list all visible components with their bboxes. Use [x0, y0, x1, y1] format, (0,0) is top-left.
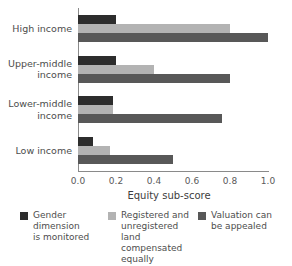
legend-swatch-icon — [198, 212, 206, 220]
legend-label: Registered and unregistered land compens… — [121, 210, 196, 265]
plot-area — [78, 8, 268, 171]
legend-entry[interactable]: Registered and unregistered land compens… — [108, 210, 196, 265]
legend-entry[interactable]: Valuation can be appealed — [198, 210, 290, 232]
bar-group — [78, 137, 268, 164]
x-axis-tick-label: 0.2 — [96, 176, 136, 186]
legend-swatch-icon — [20, 212, 28, 220]
bar — [78, 74, 230, 83]
bar-group — [78, 56, 268, 83]
bar-group — [78, 96, 268, 123]
bar — [78, 146, 110, 155]
bar — [78, 114, 222, 123]
bar-chart-figure: High incomeUpper-middle incomeLower-midd… — [0, 0, 292, 266]
bar — [78, 33, 268, 42]
bar — [78, 15, 116, 24]
y-axis-tick-label: Upper-middle income — [0, 58, 72, 81]
bar — [78, 24, 230, 33]
legend-label: Valuation can be appealed — [211, 210, 272, 232]
y-axis-tick-label: Lower-middle income — [0, 98, 72, 121]
legend-entry[interactable]: Gender dimension is monitored — [20, 210, 108, 243]
x-axis-spine — [78, 171, 269, 172]
x-axis-tick-label: 0.0 — [58, 176, 98, 186]
bar — [78, 105, 113, 114]
legend-swatch-icon — [108, 212, 116, 220]
y-axis-tick-label: Low income — [0, 145, 72, 157]
x-axis-tick-label: 1.0 — [248, 176, 288, 186]
x-axis-tick-label: 0.4 — [134, 176, 174, 186]
bar — [78, 65, 154, 74]
bar — [78, 56, 116, 65]
bar-group — [78, 15, 268, 42]
x-axis-label: Equity sub-score — [0, 190, 292, 201]
bar — [78, 96, 113, 105]
legend-label: Gender dimension is monitored — [33, 210, 108, 243]
bar — [78, 137, 93, 146]
y-axis-tick-label: High income — [0, 23, 72, 35]
x-axis-tick-label: 0.6 — [172, 176, 212, 186]
chart-legend: Gender dimension is monitoredRegistered … — [0, 210, 292, 266]
x-axis-tick-label: 0.8 — [210, 176, 250, 186]
bar — [78, 155, 173, 164]
